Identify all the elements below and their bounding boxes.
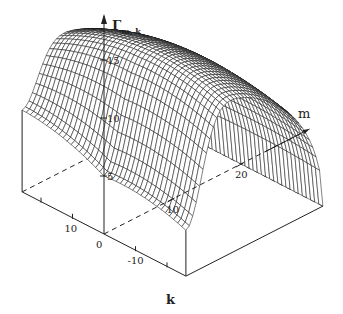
m-tick-label: 10 [167,204,180,215]
surface-plot: 51015100-101020 Γm, k k m [0,0,343,314]
surface-plot-svg: 51015100-101020 Γm, k k m [0,0,343,314]
k-axis-title: k [166,292,176,307]
z-tick-label: 15 [107,55,120,66]
k-tick-label: -10 [128,255,144,266]
k-tick-label: 10 [65,223,78,234]
front-base-edge [186,206,323,276]
z-axis-arrowhead-icon [101,14,107,24]
z-tick-label: 10 [107,113,120,124]
z-tick-label: 5 [107,171,113,182]
z-axis-title-subscript: m, k [121,26,141,36]
m-axis-title: m [298,106,310,121]
k-tick-label: 0 [96,239,102,250]
surface-mesh [22,29,323,230]
m-tick-label: 20 [235,169,248,180]
